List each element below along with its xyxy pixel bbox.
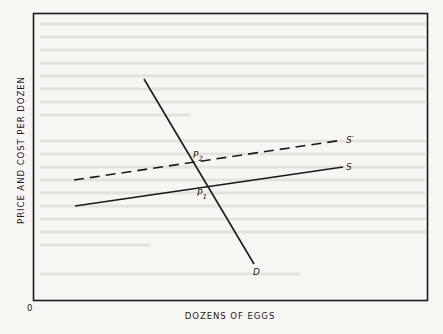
point-p1-label: P1 [197,188,207,201]
plot-frame [34,14,428,301]
svg-text:P1: P1 [197,188,207,201]
point-p2-label: P2 [193,150,203,163]
y-axis-label: PRICE AND COST PER DOZEN [16,76,26,224]
supply-label: S [346,162,352,172]
x-axis-label: DOZENS OF EGGS [185,311,276,321]
supply-demand-diagram: D S S′ P2 P1 PRICE AND COST PER DOZEN DO… [0,0,443,334]
svg-text:P2: P2 [193,150,203,163]
demand-curve [144,79,254,264]
demand-label: D [253,267,260,277]
diagram-canvas: D S S′ P2 P1 [0,0,443,334]
bleed-through-background [40,24,425,274]
supply-curve [75,167,343,206]
supply-shifted-label: S′ [346,135,354,145]
origin-label: 0 [27,303,32,313]
supply-shifted-curve [74,140,343,180]
